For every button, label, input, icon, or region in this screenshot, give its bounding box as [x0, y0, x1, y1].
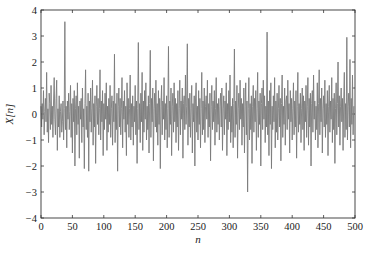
x-tick-label: 150 [127, 221, 143, 232]
x-axis-label: n [195, 233, 201, 245]
y-tick-label: 1 [32, 83, 37, 94]
x-tick-label: 350 [253, 221, 269, 232]
signal-line [41, 22, 354, 192]
y-tick-label: −4 [26, 213, 38, 224]
y-tick-label: 4 [32, 5, 38, 16]
x-tick-label: 100 [96, 221, 112, 232]
y-axis-label: X[n] [3, 104, 15, 126]
y-tick-label: −1 [26, 135, 37, 146]
y-tick-label: 2 [32, 57, 37, 68]
x-tick-label: 500 [347, 221, 363, 232]
x-tick-label: 0 [38, 221, 43, 232]
x-tick-label: 200 [159, 221, 175, 232]
y-tick-label: −3 [26, 187, 37, 198]
x-tick-label: 400 [284, 221, 300, 232]
x-tick-label: 50 [67, 221, 78, 232]
x-tick-label: 300 [222, 221, 238, 232]
y-tick-label: 0 [32, 109, 37, 120]
x-tick-label: 250 [190, 221, 206, 232]
y-tick-label: 3 [32, 31, 37, 42]
y-tick-label: −2 [26, 161, 37, 172]
line-chart: −4−3−2−101234 05010015020025030035040045… [0, 0, 372, 253]
x-tick-label: 450 [316, 221, 332, 232]
